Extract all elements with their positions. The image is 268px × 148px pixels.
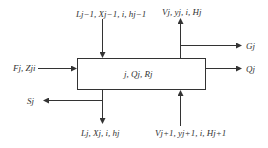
liquid-out-label: Lj, Xj, i, hj [81,128,120,138]
heat-out-label: Qj [246,64,255,74]
vapor-in-label: Vj+1, yj+1, i, Hj+1 [155,128,226,138]
stage-label: j, Qj, Rj [124,69,153,79]
liquid-in-label: Lj−1, Xj−1, i, hj−1 [76,9,146,19]
vapor-side-label: Gj [246,41,255,51]
liquid-side-label: Sj [27,96,34,106]
vapor-out-label: Vj, yj, i, Hj [162,7,202,17]
feed-in-label: Fj, Zji [13,63,36,73]
